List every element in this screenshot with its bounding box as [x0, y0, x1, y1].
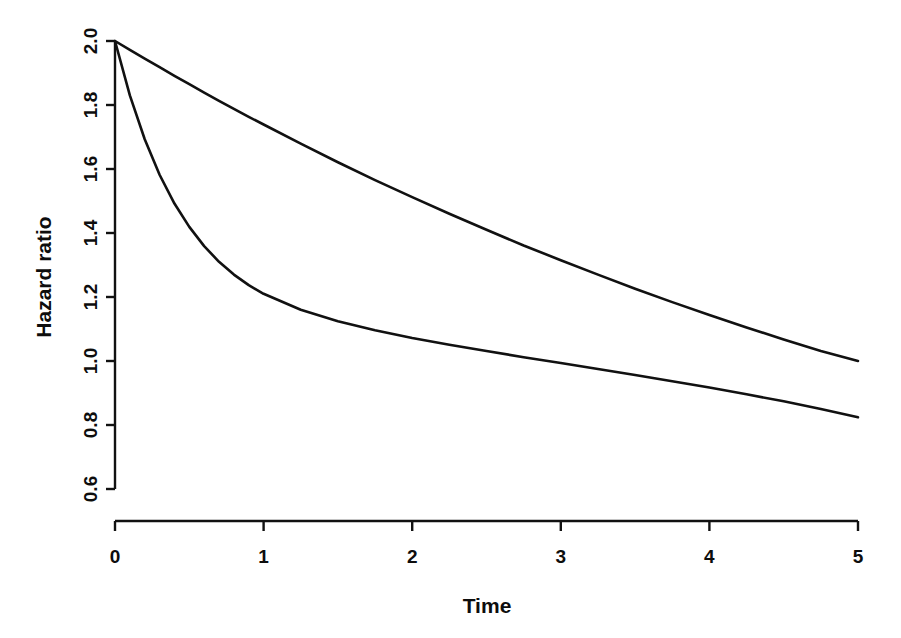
y-tick-label: 1.2: [80, 284, 101, 310]
hazard-ratio-line-chart: 2.0 1.8 1.6 1.4 1.2 1.0 0.8 0.6 0 1 2 3 …: [0, 0, 901, 638]
y-tick-label: 0.6: [80, 476, 101, 502]
y-axis-title: Hazard ratio: [32, 216, 55, 337]
y-tick-label: 1.6: [80, 156, 101, 182]
y-tick-label: 2.0: [80, 28, 101, 54]
x-axis-title: Time: [463, 594, 512, 617]
x-tick-label: 1: [258, 546, 269, 567]
x-tick-label: 3: [556, 546, 567, 567]
y-tick-label: 1.4: [80, 219, 101, 246]
x-tick-label: 2: [407, 546, 418, 567]
x-tick-label: 4: [704, 546, 715, 567]
y-tick-label: 1.8: [80, 92, 101, 118]
chart-background: [0, 0, 901, 638]
y-tick-label: 0.8: [80, 412, 101, 438]
y-tick-label: 1.0: [80, 348, 101, 374]
x-tick-label: 5: [853, 546, 864, 567]
chart-plot-area: 2.0 1.8 1.6 1.4 1.2 1.0 0.8 0.6 0 1 2 3 …: [0, 0, 901, 638]
x-tick-label: 0: [110, 546, 121, 567]
